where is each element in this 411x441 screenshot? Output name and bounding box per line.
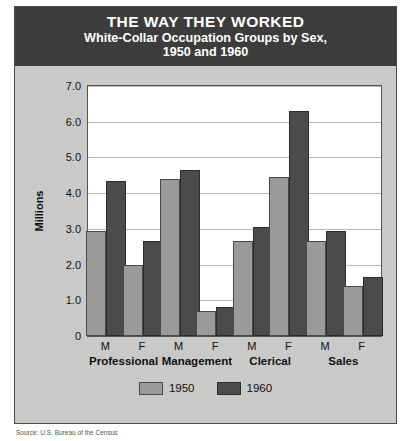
legend-swatch [217, 382, 241, 395]
y-axis-tick-label: 1.0 [66, 294, 81, 306]
y-axis-tick-label: 4.0 [66, 187, 81, 199]
bar-1950[interactable] [123, 265, 143, 336]
legend-label: 1950 [169, 382, 195, 394]
bar-1950[interactable] [306, 241, 326, 336]
bar-pair [341, 86, 385, 336]
subtitle-line-2: 1950 and 1960 [84, 45, 327, 59]
bar-1950[interactable] [269, 177, 289, 336]
page-subtitle: White-Collar Occupation Groups by Sex, 1… [84, 31, 327, 60]
bar-1950[interactable] [86, 231, 106, 336]
x-axis-group-label: Sales [297, 355, 389, 367]
legend-item[interactable]: 1950 [139, 382, 195, 395]
bar-1950[interactable] [196, 311, 216, 336]
page-title: THE WAY THEY WORKED [107, 14, 305, 30]
y-axis-tick-label: 0 [75, 330, 81, 342]
title-band: THE WAY THEY WORKED White-Collar Occupat… [15, 7, 396, 66]
bar-1950[interactable] [233, 241, 253, 336]
y-axis-tick-label: 7.0 [66, 80, 81, 92]
x-axis-group-labels: ProfessionalManagementClericalSales [87, 355, 382, 371]
chart-legend: 19501960 [15, 378, 396, 398]
y-axis-tick-label: 6.0 [66, 116, 81, 128]
y-axis-tick-label: 2.0 [66, 259, 81, 271]
legend-label: 1960 [247, 382, 273, 394]
poster-frame: THE WAY THEY WORKED White-Collar Occupat… [14, 6, 397, 424]
subtitle-line-1: White-Collar Occupation Groups by Sex, [84, 31, 327, 45]
chart-figure: THE WAY THEY WORKED White-Collar Occupat… [0, 0, 411, 441]
x-axis-sex-label: F [339, 340, 385, 352]
bar-1960[interactable] [363, 277, 383, 336]
plot-canvas [88, 86, 381, 336]
chart-body: Millions 7.06.05.04.03.02.01.00 MFMFMFMF… [15, 66, 396, 425]
bar-1950[interactable] [160, 179, 180, 336]
bar-1950[interactable] [343, 286, 363, 336]
legend-swatch [139, 382, 163, 395]
source-note: Source: U.S. Bureau of the Census [16, 429, 118, 436]
x-axis-sex-labels: MFMFMFMF [87, 340, 382, 355]
y-axis-tick-label: 5.0 [66, 151, 81, 163]
y-axis-tick-label: 3.0 [66, 223, 81, 235]
y-axis-ticks: 7.06.05.04.03.02.01.00 [29, 85, 85, 337]
plot-area [87, 85, 382, 337]
legend-item[interactable]: 1960 [217, 382, 273, 395]
